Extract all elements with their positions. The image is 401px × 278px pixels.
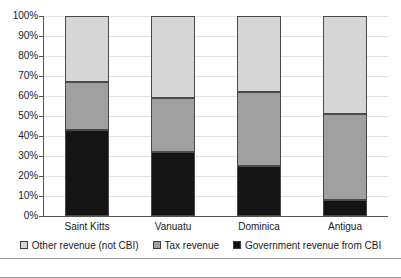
y-tick-label: 40% xyxy=(18,131,38,141)
stacked-bar[interactable] xyxy=(151,16,195,216)
y-tick-mark xyxy=(39,76,44,77)
legend-swatch-icon xyxy=(20,241,28,249)
bar-group xyxy=(151,16,195,216)
bar-segment[interactable] xyxy=(323,16,367,114)
y-tick-label: 10% xyxy=(18,191,38,201)
stacked-bar-chart: 0%10%20%30%40%50%60%70%80%90%100% Saint … xyxy=(0,0,401,278)
bar-group xyxy=(65,16,109,216)
legend-swatch-icon xyxy=(233,241,241,249)
y-axis: 0%10%20%30%40%50%60%70%80%90%100% xyxy=(0,0,40,232)
bar-segment[interactable] xyxy=(323,200,367,216)
y-tick-mark xyxy=(39,156,44,157)
y-tick-mark xyxy=(39,96,44,97)
bar-segment[interactable] xyxy=(323,114,367,200)
y-tick-label: 50% xyxy=(18,111,38,121)
y-tick-mark xyxy=(39,56,44,57)
x-axis-line xyxy=(43,216,388,217)
stacked-bar[interactable] xyxy=(323,16,367,216)
y-tick-label: 90% xyxy=(18,31,38,41)
x-tick-label: Antigua xyxy=(302,221,388,232)
y-tick-label: 30% xyxy=(18,151,38,161)
stacked-bar[interactable] xyxy=(237,16,281,216)
bar-segment[interactable] xyxy=(237,166,281,216)
legend-swatch-icon xyxy=(153,241,161,249)
x-tick-label: Vanuatu xyxy=(130,221,216,232)
bars-layer xyxy=(44,16,388,216)
bar-segment[interactable] xyxy=(151,16,195,98)
y-tick-label: 0% xyxy=(24,211,38,221)
bar-segment[interactable] xyxy=(151,152,195,216)
y-tick-mark xyxy=(39,216,44,217)
bar-segment[interactable] xyxy=(65,130,109,216)
legend-item[interactable]: Tax revenue xyxy=(153,240,219,251)
y-tick-mark xyxy=(39,36,44,37)
x-tick-label: Saint Kitts xyxy=(44,221,130,232)
y-tick-label: 70% xyxy=(18,71,38,81)
bar-segment[interactable] xyxy=(65,82,109,130)
legend-label: Government revenue from CBI xyxy=(245,240,381,251)
y-tick-mark xyxy=(39,116,44,117)
legend-item[interactable]: Other revenue (not CBI) xyxy=(20,240,139,251)
bar-segment[interactable] xyxy=(237,16,281,92)
y-tick-mark xyxy=(39,176,44,177)
y-tick-label: 100% xyxy=(13,11,38,21)
y-tick-label: 20% xyxy=(18,171,38,181)
chart-legend: Other revenue (not CBI)Tax revenueGovern… xyxy=(0,236,401,254)
bar-group xyxy=(237,16,281,216)
y-tick-label: 60% xyxy=(18,91,38,101)
legend-label: Tax revenue xyxy=(165,240,219,251)
x-tick-label: Dominica xyxy=(216,221,302,232)
y-tick-mark xyxy=(39,196,44,197)
y-tick-mark xyxy=(39,16,44,17)
bar-segment[interactable] xyxy=(65,16,109,82)
bar-segment[interactable] xyxy=(151,98,195,152)
legend-item[interactable]: Government revenue from CBI xyxy=(233,240,381,251)
stacked-bar[interactable] xyxy=(65,16,109,216)
plot-area: 0%10%20%30%40%50%60%70%80%90%100% Saint … xyxy=(0,0,401,232)
footer-rule-top xyxy=(0,258,401,259)
legend-label: Other revenue (not CBI) xyxy=(32,240,139,251)
y-tick-label: 80% xyxy=(18,51,38,61)
bar-segment[interactable] xyxy=(237,92,281,166)
bar-group xyxy=(323,16,367,216)
y-tick-mark xyxy=(39,136,44,137)
